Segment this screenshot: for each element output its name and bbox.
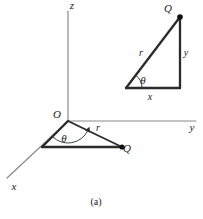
lower-point-q-label: Q xyxy=(123,142,131,154)
x-axis-label: x xyxy=(11,180,17,192)
upper-angle-label-theta: θ xyxy=(140,74,146,86)
upper-point-q-marker xyxy=(177,14,183,20)
y-axis-label: y xyxy=(189,121,195,133)
lower-triangle-group xyxy=(42,121,125,150)
lower-radius-label-r: r xyxy=(96,122,100,133)
figure-container: z y x O Q r θ Q r y x θ (a) xyxy=(0,0,203,219)
figure-caption: (a) xyxy=(90,196,101,208)
upper-triangle-group xyxy=(126,14,183,88)
upper-point-q-label: Q xyxy=(164,2,172,14)
upper-triangle-hypotenuse-r xyxy=(126,17,180,88)
upper-horizontal-label-x: x xyxy=(147,91,153,102)
axes-group xyxy=(7,11,196,178)
lower-angle-label-theta: θ xyxy=(61,132,67,144)
lower-triangle-hypotenuse-r xyxy=(68,121,122,147)
upper-vertical-label-y: y xyxy=(183,47,189,58)
spherical-coordinates-diagram: z y x O Q r θ Q r y x θ (a) xyxy=(0,0,203,219)
z-axis-label: z xyxy=(69,0,75,11)
origin-label: O xyxy=(53,108,61,120)
upper-radius-label-r: r xyxy=(139,47,143,58)
